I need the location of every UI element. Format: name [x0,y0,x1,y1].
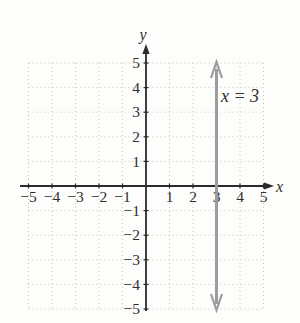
x-tick-label: 5 [260,188,268,205]
y-axis-label: y [137,26,147,44]
x-tick-label: −2 [91,188,108,205]
y-tick-label: −2 [124,226,141,243]
x-tick-label: −3 [67,188,84,205]
y-tick-label: −4 [124,276,141,293]
y-tick-label: 4 [132,79,140,96]
chart-svg: −5−4−3−2−11234554321−1−2−3−4−5xyx = 3 [0,0,300,323]
graph-page: −5−4−3−2−11234554321−1−2−3−4−5xyx = 3 [0,0,300,323]
coordinate-plane-graph: −5−4−3−2−11234554321−1−2−3−4−5xyx = 3 [0,0,300,323]
x-axis-label: x [275,178,283,195]
x-tick-label: 2 [189,188,197,205]
y-axis-arrow [142,44,149,54]
y-tick-label: −1 [124,202,141,219]
y-tick-label: 3 [132,103,140,120]
equation-label: x = 3 [220,86,259,106]
y-tick-label: −5 [124,300,141,317]
x-tick-label: −5 [20,188,37,205]
y-tick-label: 5 [132,54,140,71]
x-tick-label: −4 [44,188,61,205]
y-tick-label: 2 [132,128,140,145]
y-tick-label: 1 [132,153,140,170]
y-tick-label: −3 [124,251,141,268]
x-tick-label: 1 [166,188,174,205]
x-tick-label: 4 [236,188,244,205]
